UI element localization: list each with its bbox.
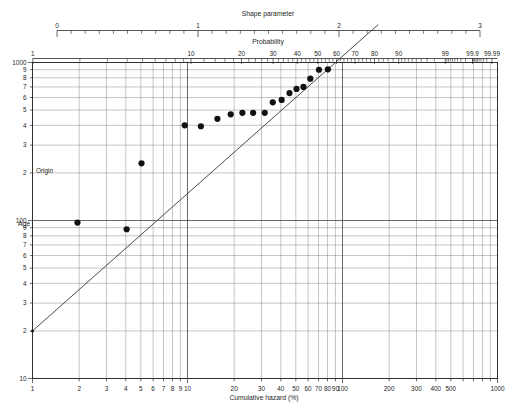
data-point: [250, 110, 256, 116]
x-tick-label: 40: [277, 385, 285, 392]
y-tick-label: 7: [23, 83, 27, 90]
y-tick-label: 4: [23, 280, 27, 287]
probability-axis: 11020304050607080909999.999.99: [31, 50, 500, 65]
y-tick-label: 4: [23, 122, 27, 129]
data-point: [138, 160, 144, 166]
origin-marker: [31, 329, 34, 332]
y-tick-label: 5: [23, 106, 27, 113]
data-point: [262, 110, 268, 116]
data-point: [198, 123, 204, 129]
x-tick-label: 60: [305, 385, 313, 392]
shape-parameter-axis: 0123: [55, 22, 482, 38]
data-point: [307, 76, 313, 82]
x-tick-label: 3: [105, 385, 109, 392]
x-tick-label: 4: [124, 385, 128, 392]
x-tick-label: 70: [315, 385, 323, 392]
shape-axis-tick-label: 0: [55, 22, 59, 29]
weibull-hazard-plot: 0123 11020304050607080909999.999.99 1234…: [0, 0, 511, 412]
probability-tick-label: 99: [442, 50, 450, 57]
x-tick-label: 10: [184, 385, 192, 392]
data-point: [239, 110, 245, 116]
y-tick-label: 7: [23, 241, 27, 248]
y-tick-label: 8: [23, 74, 27, 81]
x-tick-label: 50: [292, 385, 300, 392]
x-axis-hazard: 1234567891020304050607080901002003004005…: [31, 379, 505, 392]
data-point: [286, 90, 292, 96]
x-tick-label: 20: [231, 385, 239, 392]
plot-canvas: 0123 11020304050607080909999.999.99 1234…: [0, 0, 511, 412]
probability-tick-label: 10: [187, 50, 195, 57]
x-tick-label: 5: [139, 385, 143, 392]
data-point: [182, 122, 188, 128]
x-tick-label: 1000: [490, 385, 505, 392]
probability-tick-label: 90: [395, 50, 403, 57]
y-tick-label: 3: [23, 299, 27, 306]
probability-tick-label: 80: [371, 50, 379, 57]
probability-tick-label: 99.99: [484, 50, 500, 57]
x-tick-label: 7: [162, 385, 166, 392]
y-tick-label: 8: [23, 232, 27, 239]
x-tick-label: 9: [179, 385, 183, 392]
probability-tick-label: 1: [31, 50, 35, 57]
x-tick-label: 300: [411, 385, 422, 392]
data-point: [74, 219, 80, 225]
x-tick-label: 30: [258, 385, 266, 392]
y-tick-label: 10: [19, 375, 27, 382]
data-point: [228, 111, 234, 117]
probability-tick-label: 60: [333, 50, 341, 57]
y-tick-label: 2: [23, 327, 27, 334]
y-tick-label: 5: [23, 264, 27, 271]
probability-tick-label: 50: [314, 50, 322, 57]
shape-axis-tick-label: 1: [196, 22, 200, 29]
x-tick-label: 6: [151, 385, 155, 392]
x-tick-label: 1: [31, 385, 35, 392]
probability-tick-label: 40: [294, 50, 302, 57]
probability-axis-title: Probability: [252, 38, 284, 46]
x-tick-label: 500: [446, 385, 457, 392]
x-tick-label: 400: [430, 385, 441, 392]
probability-tick-label: 99.9: [466, 50, 479, 57]
y-tick-label: 6: [23, 252, 27, 259]
data-point: [293, 86, 299, 92]
probability-tick-label: 20: [238, 50, 246, 57]
x-tick-label: 80: [324, 385, 332, 392]
data-point: [279, 97, 285, 103]
y-tick-label: 9: [23, 66, 27, 73]
origin-label: Origin: [36, 167, 53, 175]
x-tick-label: 8: [171, 385, 175, 392]
data-point: [214, 116, 220, 122]
x-axis-title: Cumulative hazard (%): [229, 394, 298, 402]
y-tick-label: 6: [23, 94, 27, 101]
data-point: [124, 226, 130, 232]
annotations: [31, 329, 34, 332]
y-tick-label: 3: [23, 141, 27, 148]
shape-axis-tick-label: 2: [337, 22, 341, 29]
data-point: [316, 67, 322, 73]
probability-tick-label: 30: [270, 50, 278, 57]
x-tick-label: 200: [384, 385, 395, 392]
data-point: [325, 66, 331, 72]
y-axis-title: Age: [18, 220, 30, 228]
x-tick-label: 2: [77, 385, 81, 392]
probability-tick-label: 70: [351, 50, 359, 57]
data-point: [270, 99, 276, 105]
y-tick-label: 1000: [12, 59, 27, 66]
shape-axis-tick-label: 3: [478, 22, 482, 29]
x-tick-label: 100: [337, 385, 348, 392]
data-points: [74, 66, 331, 232]
data-point: [300, 84, 306, 90]
shape-parameter-axis-title: Shape parameter: [242, 10, 295, 18]
y-tick-label: 2: [23, 169, 27, 176]
